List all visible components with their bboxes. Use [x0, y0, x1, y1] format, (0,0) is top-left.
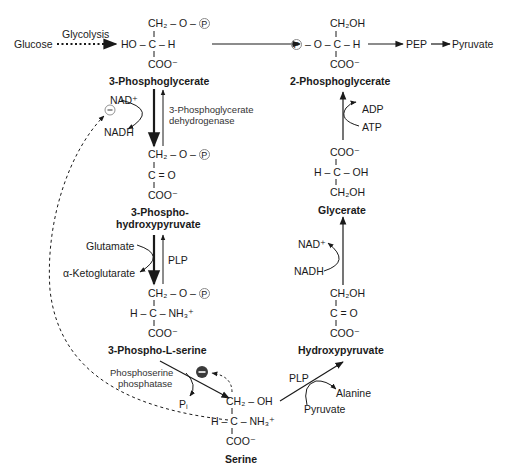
label-adp: ADP — [362, 103, 384, 115]
label-nad-plus-right: NAD⁺ — [298, 238, 326, 250]
label-nadh-right: NADH — [294, 265, 324, 277]
3php-name-line1: 3-Phospho- — [131, 206, 189, 218]
3ps-name: 3-Phospho-L-serine — [108, 344, 207, 356]
3ps-row3: COO⁻ — [148, 327, 178, 339]
serine-name: Serine — [225, 453, 257, 465]
3php-name-line2: hydroxypyruvate — [116, 218, 201, 230]
phosphate-icon: P — [199, 18, 210, 29]
phosphate-icon: P — [291, 39, 302, 50]
3pg-row2: HO – C – H — [121, 38, 175, 50]
label-glutamate: Glutamate — [86, 240, 134, 252]
hp-name: Hydroxypyruvate — [298, 344, 384, 356]
pi-release-curve — [186, 373, 193, 396]
hp-row1: CH₂OH — [330, 287, 365, 299]
label-glycolysis: Glycolysis — [62, 28, 109, 40]
label-pi: Pᵢ — [179, 398, 188, 410]
2pg-row2: P – O – C – H — [291, 38, 360, 50]
label-alpha-ketoglutarate: α-Ketoglutarate — [63, 267, 135, 279]
enzyme-psp-line2: phosphatase — [118, 378, 172, 390]
3pg-name: 3-Phosphoglycerate — [109, 75, 209, 87]
serine-row2: H – C – NH₃⁺ — [211, 415, 275, 427]
label-plp-left: PLP — [168, 254, 188, 266]
phosphate-icon: P — [199, 149, 210, 160]
label-nad-plus-left: NAD⁺ — [110, 94, 138, 106]
3php-row3: COO⁻ — [148, 189, 178, 201]
hp-row3: COO⁻ — [330, 327, 360, 339]
feedback-inhibition-psp-curve — [212, 373, 232, 392]
3ps-row1: CH₂ – O – P — [148, 287, 210, 299]
label-atp: ATP — [362, 121, 382, 133]
serine-row3: COO⁻ — [226, 435, 256, 447]
2pg-row3: COO⁻ — [330, 58, 360, 70]
phosphate-icon: P — [199, 288, 210, 299]
label-pep: PEP — [406, 38, 427, 50]
2pg-name: 2-Phosphoglycerate — [290, 75, 390, 87]
2pg-row1: CH₂OH — [330, 17, 365, 29]
glycerate-row2: H – C – OH — [314, 166, 368, 178]
3pg-row3: COO⁻ — [148, 58, 178, 70]
label-pyruvate-top: Pyruvate — [452, 38, 493, 50]
3php-row1: CH₂ – O – P — [148, 148, 210, 160]
label-glucose: Glucose — [14, 38, 53, 50]
enzyme-pgdh-line2: dehydrogenase — [169, 115, 235, 127]
atp-to-adp-curve — [344, 102, 359, 126]
glycerate-row3: CH₂OH — [330, 186, 365, 198]
3pg-row1: CH₂ – O – P — [148, 17, 210, 29]
label-pyruvate-bottom: Pyruvate — [304, 403, 345, 415]
label-plp-right: PLP — [289, 372, 309, 384]
glycerate-row1: COO⁻ — [330, 146, 360, 158]
glutamate-to-akg-curve — [137, 245, 153, 272]
label-nadh-left: NADH — [104, 126, 134, 138]
glycerate-name: Glycerate — [318, 204, 366, 216]
3ps-row2: H – C – NH₃⁺ — [130, 307, 194, 319]
nadh-to-nad-curve-right — [324, 243, 339, 271]
serine-row1: CH₂ – OH — [226, 395, 273, 407]
label-alanine: Alanine — [336, 387, 371, 399]
pyruvate-to-alanine-curve — [306, 381, 336, 405]
3php-row2: C = O — [148, 169, 176, 181]
hp-row2: C = O — [330, 307, 358, 319]
